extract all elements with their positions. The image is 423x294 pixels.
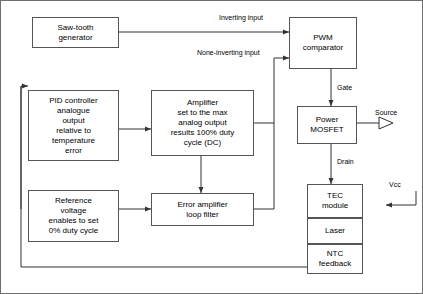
- block-diagram: Saw-tooth generator PWM comparator PID c…: [0, 0, 423, 294]
- block-ntc-feedback[interactable]: NTC feedback: [307, 244, 363, 274]
- label-gate: Gate: [337, 84, 352, 92]
- block-power-mosfet[interactable]: Power MOSFET: [297, 106, 357, 144]
- block-tec-module-label: TEC module: [322, 191, 348, 211]
- block-sawtooth-generator-label: Saw-tooth generator: [57, 23, 93, 43]
- block-amplifier[interactable]: Amplifier set to the max analog output r…: [151, 90, 254, 156]
- block-pid-controller-label: PID controller analogue output relative …: [49, 96, 97, 156]
- block-laser[interactable]: Laser: [307, 218, 363, 244]
- block-reference-voltage[interactable]: Reference voltage enables to set 0% duty…: [28, 190, 119, 242]
- block-pwm-comparator-label: PWM comparator: [303, 33, 343, 53]
- block-error-amplifier-loop-filter[interactable]: Error amplifier loop filter: [151, 193, 254, 226]
- label-source: Source: [375, 109, 397, 117]
- block-reference-voltage-label: Reference voltage enables to set 0% duty…: [49, 196, 99, 236]
- block-power-mosfet-label: Power MOSFET: [310, 115, 343, 135]
- block-laser-label: Laser: [325, 226, 345, 236]
- block-pwm-comparator[interactable]: PWM comparator: [289, 17, 357, 69]
- block-error-amplifier-loop-filter-label: Error amplifier loop filter: [177, 200, 227, 220]
- block-pid-controller[interactable]: PID controller analogue output relative …: [28, 90, 119, 161]
- label-none-inverting-input: None-inverting input: [197, 49, 260, 57]
- label-vcc: Vcc: [389, 181, 401, 189]
- label-drain: Drain: [337, 158, 354, 166]
- block-ntc-feedback-label: NTC feedback: [319, 249, 351, 269]
- block-sawtooth-generator[interactable]: Saw-tooth generator: [32, 17, 119, 48]
- label-inverting-input: Inverting input: [219, 14, 263, 22]
- block-amplifier-label: Amplifier set to the max analog output r…: [171, 98, 235, 148]
- block-tec-module[interactable]: TEC module: [307, 184, 363, 218]
